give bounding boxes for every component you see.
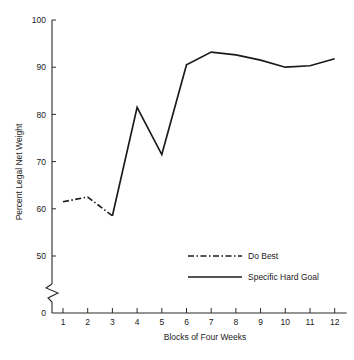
y-tick-label-60: 60 [37, 204, 47, 214]
legend-label-specific-hard-goal: Specific Hard Goal [248, 272, 319, 282]
x-tick-label-9: 9 [258, 317, 263, 327]
x-tick-label-10: 10 [281, 317, 291, 327]
series-specific-hard-goal [112, 52, 334, 216]
y-tick-label-50: 50 [37, 251, 47, 261]
y-tick-label-0: 0 [41, 308, 46, 318]
y-tick-label-90: 90 [37, 62, 47, 72]
x-tick-label-2: 2 [85, 317, 90, 327]
x-tick-label-11: 11 [306, 317, 315, 327]
legend-label-do-best: Do Best [248, 251, 279, 261]
chart-legend: Do BestSpecific Hard Goal [188, 251, 319, 282]
x-axis: 123456789101112 [52, 308, 347, 327]
x-tick-label-4: 4 [135, 317, 140, 327]
series-do-best [63, 197, 112, 216]
x-tick-label-1: 1 [61, 317, 66, 327]
y-tick-label-100: 100 [32, 15, 46, 25]
x-tick-label-3: 3 [110, 317, 115, 327]
x-tick-label-8: 8 [234, 317, 239, 327]
x-tick-label-12: 12 [330, 317, 340, 327]
y-axis-title: Percent Legal Net Weight [14, 123, 24, 220]
line-chart: Percent Legal Net Weight Blocks of Four … [0, 0, 354, 360]
chart-container: Percent Legal Net Weight Blocks of Four … [0, 0, 354, 360]
x-tick-label-5: 5 [159, 317, 164, 327]
y-tick-label-80: 80 [37, 110, 47, 120]
series-group [63, 52, 335, 216]
y-axis: 05060708090100 [32, 15, 58, 318]
x-tick-label-7: 7 [209, 317, 214, 327]
x-axis-title: Blocks of Four Weeks [164, 332, 247, 342]
y-tick-label-70: 70 [37, 157, 47, 167]
x-tick-label-6: 6 [184, 317, 189, 327]
